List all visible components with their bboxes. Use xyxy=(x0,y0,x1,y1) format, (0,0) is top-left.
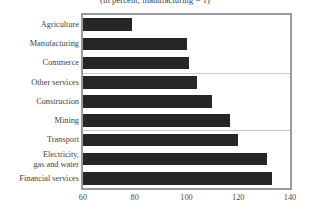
bar-chart-figure: (in percent; manufacturing = 1) Agricult… xyxy=(0,0,310,215)
x-tick-label: 140 xyxy=(284,193,296,202)
bar xyxy=(83,76,197,89)
group-separator-line xyxy=(83,73,290,74)
x-tick-label: 120 xyxy=(232,193,244,202)
bar-row: Construction xyxy=(83,92,290,111)
chart-title: (in percent; manufacturing = 1) xyxy=(0,0,310,5)
category-label: Commerce xyxy=(43,53,79,72)
category-label: Transport xyxy=(47,130,79,149)
category-label: Other services xyxy=(31,73,79,92)
bar-row: Financial services xyxy=(83,169,290,188)
bar xyxy=(83,114,230,127)
category-label: Financial services xyxy=(19,169,79,188)
bar xyxy=(83,153,267,166)
bar-row: Electricity,gas and water xyxy=(83,150,290,169)
bar-row: Transport xyxy=(83,130,290,149)
bar xyxy=(83,57,189,70)
bar xyxy=(83,95,212,108)
bar-row: Mining xyxy=(83,111,290,130)
category-label: Mining xyxy=(55,111,79,130)
bar-row: Agriculture xyxy=(83,15,290,34)
bar xyxy=(83,38,187,51)
bar xyxy=(83,134,238,147)
category-label: Agriculture xyxy=(41,15,79,34)
bar xyxy=(83,18,132,31)
x-axis-tick-labels: 6080100120140 xyxy=(0,193,310,209)
bar-row: Other services xyxy=(83,73,290,92)
category-label: Construction xyxy=(36,92,79,111)
bar xyxy=(83,172,272,185)
x-tick-label: 80 xyxy=(131,193,139,202)
category-label: Electricity,gas and water xyxy=(33,150,79,169)
x-tick-label: 60 xyxy=(79,193,87,202)
group-separator-line xyxy=(83,130,290,131)
x-tick-label: 100 xyxy=(180,193,192,202)
plot-inner: AgricultureManufacturingCommerceOther se… xyxy=(83,15,290,188)
plot-area-frame: AgricultureManufacturingCommerceOther se… xyxy=(81,13,292,190)
bar-row: Manufacturing xyxy=(83,34,290,53)
bar-row: Commerce xyxy=(83,53,290,72)
category-label: Manufacturing xyxy=(30,34,79,53)
